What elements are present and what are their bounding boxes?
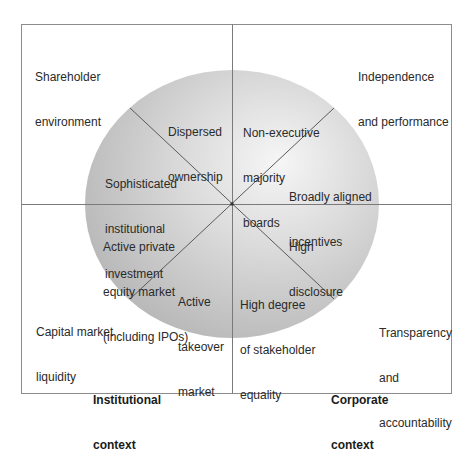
label-line: Shareholder: [35, 70, 101, 85]
segment-stakeholder-equality: High degree of stakeholder equality: [240, 268, 315, 418]
label-line: context: [93, 438, 161, 453]
label-line: context: [331, 438, 388, 453]
quadrant-label-shareholder-environment: Shareholder environment: [35, 40, 101, 145]
center-point: [231, 203, 234, 206]
label-line: environment: [35, 115, 101, 130]
label-line: and performance: [358, 115, 449, 130]
label-line: and: [379, 371, 452, 386]
label-line: (including IPOs): [103, 330, 188, 345]
label-line: Corporate: [331, 393, 388, 408]
label-line: market: [178, 385, 224, 400]
label-line: Capital market: [36, 325, 113, 340]
label-line: equity market: [103, 285, 188, 300]
label-line: Independence: [358, 70, 449, 85]
context-label-corporate: Corporate context: [331, 363, 388, 453]
label-line: Active: [178, 295, 224, 310]
label-line: equality: [240, 388, 315, 403]
segment-private-equity-market: Active private equity market (including …: [103, 210, 188, 360]
label-line: Sophisticated: [105, 177, 177, 192]
label-line: High: [289, 240, 343, 255]
label-line: Active private: [103, 240, 188, 255]
label-line: Dispersed: [168, 125, 223, 140]
segment-takeover-market: Active takeover market: [178, 265, 224, 415]
quadrant-label-independence-performance: Independence and performance: [358, 40, 449, 145]
label-line: accountability: [379, 416, 452, 431]
label-line: of stakeholder: [240, 343, 315, 358]
context-label-institutional: Institutional context: [93, 363, 161, 453]
label-line: High degree: [240, 298, 315, 313]
label-line: Transparency: [379, 326, 452, 341]
label-line: Non-executive: [243, 126, 320, 141]
label-line: Broadly aligned: [289, 190, 372, 205]
quadrant-label-transparency-accountability: Transparency and accountability: [379, 296, 452, 446]
label-line: takeover: [178, 340, 224, 355]
label-line: Institutional: [93, 393, 161, 408]
